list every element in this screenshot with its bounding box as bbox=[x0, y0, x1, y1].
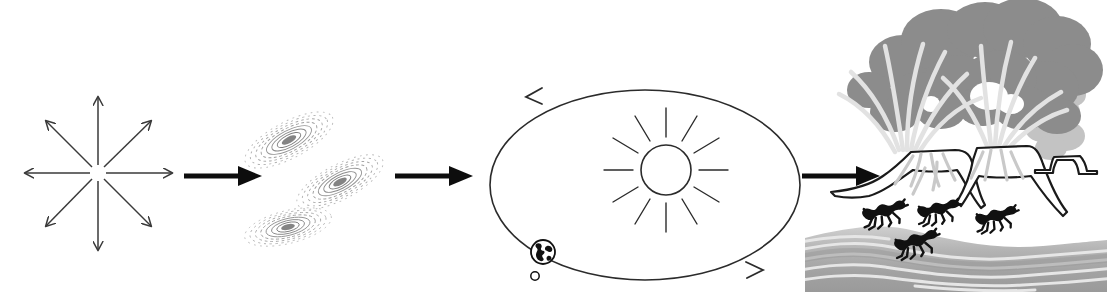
galaxy-1 bbox=[240, 101, 341, 179]
big-bang-ray-group bbox=[25, 97, 172, 250]
volcano-group bbox=[831, 146, 1097, 216]
earth bbox=[531, 240, 555, 264]
sun-disc bbox=[641, 145, 691, 195]
sun bbox=[604, 108, 728, 232]
ant-3 bbox=[974, 205, 1022, 236]
seabed bbox=[795, 227, 1115, 292]
stage-solar-system: Formation of the solar system bbox=[470, 0, 810, 302]
galaxy-3 bbox=[241, 200, 335, 253]
orbit-arrowhead-bottom bbox=[746, 262, 763, 278]
big-bang-ray-ne bbox=[104, 121, 151, 167]
galaxy-2 bbox=[289, 144, 390, 220]
big-bang-diagram bbox=[0, 0, 182, 302]
ant-1 bbox=[861, 199, 912, 231]
ant-2 bbox=[916, 198, 964, 227]
solar-system-diagram bbox=[470, 0, 810, 302]
big-bang-ray-se bbox=[104, 179, 151, 226]
cosmic-evolution-figure: Big Bang expansion bbox=[0, 0, 1119, 302]
volcanic-earth-diagram bbox=[795, 0, 1119, 302]
stage-big-bang: Big Bang expansion bbox=[0, 0, 182, 302]
galaxies-diagram bbox=[240, 0, 390, 302]
orbit-arrowhead-top bbox=[526, 88, 542, 104]
stage-galaxies: Formation of galaxies bbox=[240, 0, 390, 302]
arrow-right-icon bbox=[393, 162, 479, 190]
moon bbox=[531, 272, 539, 280]
transition-arrow-2 bbox=[393, 162, 479, 190]
stage-volcanic-earth: Volcanic early Earth and first life bbox=[795, 0, 1119, 302]
big-bang-ray-sw bbox=[46, 179, 92, 226]
big-bang-ray-nw bbox=[46, 121, 92, 167]
